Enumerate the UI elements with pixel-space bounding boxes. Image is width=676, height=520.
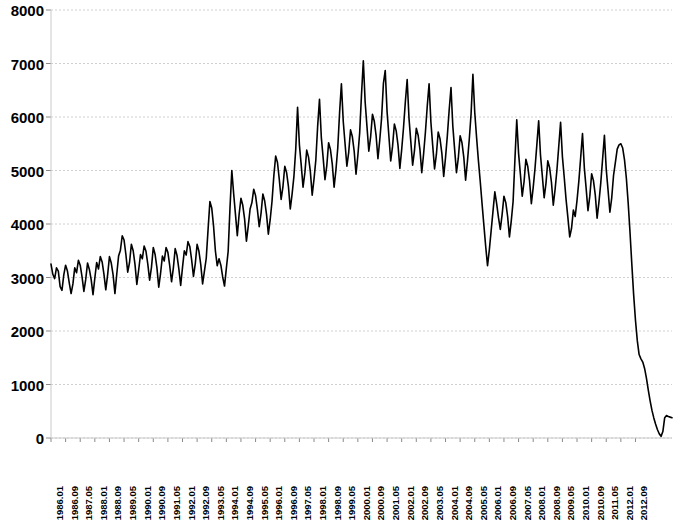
- x-tick-label-2005.05: 2005.05: [479, 486, 489, 520]
- x-tick-label-1998.09: 1998.09: [333, 486, 343, 520]
- x-tick-label-1986.09: 1986.09: [70, 486, 80, 520]
- x-tick-label-1991.05: 1991.05: [172, 486, 182, 520]
- x-tick-label-1999.05: 1999.05: [347, 486, 357, 520]
- x-tick-label-1987.05: 1987.05: [84, 486, 94, 520]
- x-tick-label-1988.01: 1988.01: [99, 486, 109, 520]
- x-tick-label-1992.09: 1992.09: [201, 486, 211, 520]
- x-tick-label-1994.09: 1994.09: [245, 486, 255, 520]
- x-tick-label-2006.01: 2006.01: [493, 486, 503, 520]
- x-tick-label-1988.09: 1988.09: [113, 486, 123, 520]
- x-tick-label-1989.05: 1989.05: [128, 486, 138, 520]
- x-tick-label-2002.01: 2002.01: [406, 486, 416, 520]
- x-tick-label-1994.01: 1994.01: [230, 486, 240, 520]
- x-tick-label-2000.09: 2000.09: [376, 486, 386, 520]
- x-tick-label-1996.01: 1996.01: [274, 486, 284, 520]
- x-tick-label-1990.09: 1990.09: [157, 486, 167, 520]
- x-tick-label-2004.01: 2004.01: [450, 486, 460, 520]
- x-tick-label-2006.09: 2006.09: [508, 486, 518, 520]
- x-tick-label-2008.09: 2008.09: [552, 486, 562, 520]
- x-tick-label-2011.05: 2011.05: [610, 486, 620, 520]
- x-tick-label-2007.05: 2007.05: [523, 486, 533, 520]
- x-tick-label-2001.05: 2001.05: [391, 486, 401, 520]
- x-tick-label-1998.01: 1998.01: [318, 486, 328, 520]
- x-tick-label-2008.01: 2008.01: [537, 486, 547, 520]
- x-tick-label-1993.05: 1993.05: [216, 486, 226, 520]
- x-tick-label-2003.05: 2003.05: [435, 486, 445, 520]
- x-tick-label-1995.05: 1995.05: [260, 486, 270, 520]
- x-tick-label-2004.09: 2004.09: [464, 486, 474, 520]
- x-tick-label-2002.09: 2002.09: [420, 486, 430, 520]
- x-tick-label-1997.05: 1997.05: [303, 486, 313, 520]
- x-tick-label-1986.01: 1986.01: [55, 486, 65, 520]
- x-tick-label-2000.01: 2000.01: [362, 486, 372, 520]
- x-tick-label-2009.05: 2009.05: [566, 486, 576, 520]
- x-tick-label-1996.09: 1996.09: [289, 486, 299, 520]
- x-tick-label-2010.09: 2010.09: [596, 486, 606, 520]
- x-tick-label-2010.01: 2010.01: [581, 486, 591, 520]
- x-tick-label-2012.09: 2012.09: [639, 486, 649, 520]
- x-tick-label-1992.01: 1992.01: [187, 486, 197, 520]
- x-tick-label-2012.01: 2012.01: [625, 486, 635, 520]
- x-tick-label-1990.01: 1990.01: [143, 486, 153, 520]
